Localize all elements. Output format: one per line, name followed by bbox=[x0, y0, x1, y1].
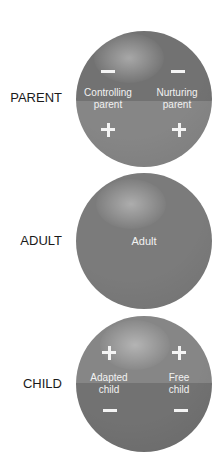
adult-label: ADULT bbox=[20, 234, 62, 248]
sphere-highlight bbox=[96, 179, 166, 229]
plus-icon bbox=[100, 122, 116, 138]
minus-icon bbox=[102, 403, 118, 419]
adapted-child-label: Adapted child bbox=[76, 372, 144, 396]
child-label: CHILD bbox=[23, 377, 62, 391]
adult-circle: Adult bbox=[76, 173, 212, 309]
controlling-parent-label: Controlling parent bbox=[76, 87, 143, 111]
adapted-child-line1: Adapted bbox=[76, 372, 144, 384]
nurturing-parent-line2: parent bbox=[142, 99, 212, 111]
parent-label: PARENT bbox=[10, 91, 62, 105]
controlling-parent-line2: parent bbox=[76, 99, 143, 111]
nurturing-parent-line1: Nurturing bbox=[142, 87, 212, 99]
minus-icon bbox=[170, 64, 186, 80]
adult-center-label: Adult bbox=[76, 235, 212, 247]
free-child-line1: Free bbox=[144, 372, 212, 384]
minus-icon bbox=[100, 64, 116, 80]
plus-icon bbox=[171, 122, 187, 138]
plus-icon bbox=[101, 345, 117, 361]
free-child-line2: child bbox=[144, 384, 212, 396]
controlling-parent-line1: Controlling bbox=[76, 87, 143, 99]
free-child-label: Free child bbox=[144, 372, 212, 396]
plus-icon bbox=[171, 345, 187, 361]
nurturing-parent-label: Nurturing parent bbox=[142, 87, 212, 111]
parent-circle: Controlling parent Nurturing parent bbox=[76, 31, 212, 167]
adapted-child-line2: child bbox=[76, 384, 144, 396]
minus-icon bbox=[173, 403, 189, 419]
child-circle: Adapted child Free child bbox=[76, 316, 212, 452]
